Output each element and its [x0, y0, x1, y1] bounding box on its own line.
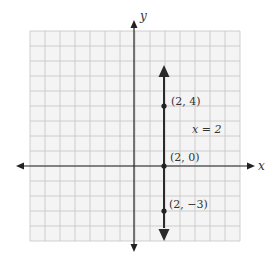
point-label-2-4: (2, 4)	[171, 95, 201, 108]
x-axis-label: x	[258, 159, 265, 173]
point-label-2-0: (2, 0)	[170, 151, 200, 164]
point-2-neg3	[161, 208, 166, 213]
coordinate-graph: x y (2, 4) x = 2 (2, 0) (2, −3)	[0, 0, 277, 261]
y-axis-up-arrow-icon	[131, 20, 138, 28]
y-axis-label: y	[139, 9, 147, 23]
y-axis-down-arrow-icon	[131, 244, 138, 252]
x-axis-left-arrow-icon	[16, 163, 24, 170]
point-2-4	[161, 103, 166, 108]
point-label-2-neg3: (2, −3)	[169, 198, 208, 211]
x-axis-right-arrow-icon	[247, 163, 255, 170]
point-2-0	[161, 163, 166, 168]
equation-label: x = 2	[192, 123, 221, 136]
